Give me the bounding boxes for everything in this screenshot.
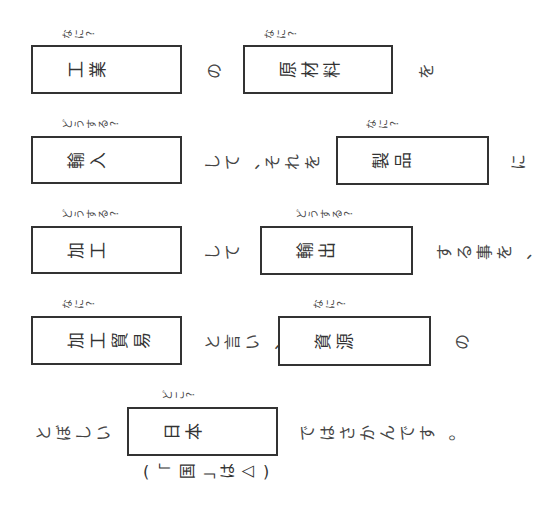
connector-char: を <box>299 152 323 172</box>
connector-char: の <box>201 61 225 81</box>
answer-box[interactable]: 加工 <box>31 226 182 274</box>
question-hint: どこ? <box>160 387 196 402</box>
hint-char: に <box>322 298 337 310</box>
connector-text: の <box>451 330 471 354</box>
question-hint: なに? <box>364 116 400 131</box>
answer-char: 品 <box>389 150 414 172</box>
answer-text: 資源 <box>310 318 354 364</box>
answer-text: 加工貿易 <box>63 318 151 363</box>
answer-box[interactable]: 日本 <box>127 407 278 456</box>
answer-text: 製品 <box>368 138 412 183</box>
answer-box[interactable]: 資源 <box>278 316 431 366</box>
connector-text: を <box>415 59 435 83</box>
answer-text: 日本 <box>159 409 203 454</box>
answer-text: 輸出 <box>292 228 336 273</box>
connector-text: とぼしい <box>32 421 112 445</box>
connector-char: 。 <box>434 423 458 443</box>
answer-char: 業 <box>84 59 109 81</box>
connector-char: の <box>449 332 473 352</box>
answer-char: 料 <box>318 59 343 81</box>
question-hint: なに? <box>262 26 298 41</box>
hint-char: ? <box>336 298 347 310</box>
answer-text: 工業 <box>63 47 107 92</box>
answer-box[interactable]: 原材料 <box>243 45 393 94</box>
answer-char: 入 <box>84 149 109 171</box>
connector-char: て <box>219 242 243 262</box>
connector-char: に <box>505 152 529 172</box>
answer-box[interactable]: 製品 <box>336 136 489 185</box>
hint-char: に <box>71 298 86 310</box>
note-particle: は <box>214 461 238 481</box>
hint-char: ? <box>109 118 120 130</box>
hint-char: ? <box>343 208 354 220</box>
answer-box[interactable]: 加工貿易 <box>31 316 182 365</box>
answer-text: 輸入 <box>63 138 107 182</box>
question-hint: どうする? <box>60 206 120 221</box>
connector-char: を <box>413 61 437 81</box>
connector-text: する事を、 <box>433 240 533 264</box>
connector-text: の <box>203 59 223 83</box>
hint-char: に <box>273 28 288 40</box>
answer-text: 原材料 <box>275 47 341 92</box>
connector-text: して、それを <box>201 150 321 174</box>
answer-char: 源 <box>331 330 356 352</box>
answer-box[interactable]: 工業 <box>31 45 182 94</box>
hint-char: ? <box>185 389 196 401</box>
note-country-triangle: ( 「 国 」 は △ ) <box>136 459 276 483</box>
triangle-icon: △ <box>237 461 256 481</box>
hint-char: ? <box>109 208 120 220</box>
note-close-paren: ) <box>256 462 276 481</box>
hint-char: ? <box>389 118 400 130</box>
hint-char: に <box>375 118 390 130</box>
question-hint: どうする? <box>294 206 354 221</box>
hint-char: こ <box>171 389 186 401</box>
answer-box[interactable]: 輸出 <box>260 226 413 275</box>
answer-char: 本 <box>180 421 205 443</box>
connector-char: い <box>90 423 114 443</box>
hint-char: る <box>95 118 110 130</box>
question-hint: なに? <box>60 26 96 41</box>
hint-char: に <box>71 28 86 40</box>
answer-char: 易 <box>128 330 153 352</box>
connector-text: と言い、 <box>201 330 281 354</box>
question-hint: なに? <box>311 296 347 311</box>
answer-text: 加工 <box>63 228 107 272</box>
hint-char: ? <box>85 298 96 310</box>
hint-char: る <box>95 208 110 220</box>
connector-text: に <box>507 150 527 174</box>
answer-char: 出 <box>313 240 338 262</box>
answer-char: 工 <box>84 239 109 261</box>
connector-text: ではさかんです。 <box>296 421 456 445</box>
hint-char: ? <box>287 28 298 40</box>
hint-char: ? <box>85 28 96 40</box>
answer-box[interactable]: 輸入 <box>31 136 182 184</box>
note-open-paren: ( <box>136 462 156 481</box>
hint-char: る <box>329 208 344 220</box>
connector-char: 、 <box>511 242 535 262</box>
question-hint: なに? <box>60 296 96 311</box>
question-hint: どうする? <box>60 116 120 131</box>
connector-text: して <box>201 240 241 264</box>
